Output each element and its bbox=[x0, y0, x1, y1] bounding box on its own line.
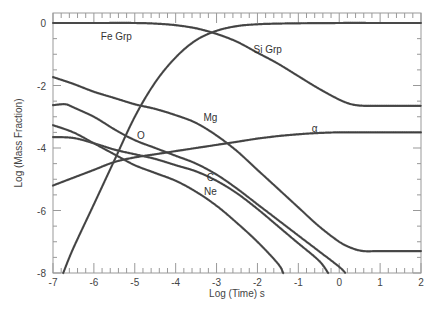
series-labels: Fe GrpSi GrpMgOCNeα bbox=[101, 31, 318, 197]
x-axis-label: Log (Time) s bbox=[209, 288, 265, 299]
x-tick-label: -4 bbox=[171, 277, 180, 288]
x-tick-label: -3 bbox=[212, 277, 221, 288]
x-tick-label: -2 bbox=[253, 277, 262, 288]
series-label: O bbox=[137, 130, 145, 141]
series-label: Mg bbox=[203, 112, 217, 123]
series-line-fe-grp bbox=[63, 23, 421, 273]
y-axis-label: Log (Mass Fraction) bbox=[13, 99, 24, 188]
series-label: Si Grp bbox=[253, 44, 282, 55]
x-tick-label: -6 bbox=[89, 277, 98, 288]
series-line-ne bbox=[53, 125, 283, 273]
series-label: α bbox=[312, 123, 318, 134]
x-tick-label: -7 bbox=[49, 277, 58, 288]
series-line-α bbox=[53, 132, 421, 185]
y-tick-label: -8 bbox=[37, 268, 46, 279]
y-tick-label: 0 bbox=[40, 18, 46, 29]
y-tick-label: -4 bbox=[37, 143, 46, 154]
axis-ticks: -7-6-5-4-3-2-10120-2-4-6-8 bbox=[37, 13, 424, 288]
x-tick-label: 1 bbox=[377, 277, 383, 288]
series-curves bbox=[53, 23, 421, 273]
series-label: Fe Grp bbox=[101, 31, 133, 42]
x-tick-label: 2 bbox=[418, 277, 424, 288]
y-tick-label: -2 bbox=[37, 81, 46, 92]
plot-frame bbox=[53, 13, 421, 273]
series-label: Ne bbox=[204, 186, 217, 197]
x-tick-label: 0 bbox=[336, 277, 342, 288]
mass-fraction-chart: -7-6-5-4-3-2-10120-2-4-6-8 Fe GrpSi GrpM… bbox=[0, 0, 437, 313]
y-tick-label: -6 bbox=[37, 206, 46, 217]
series-label: C bbox=[207, 172, 214, 183]
x-tick-label: -5 bbox=[130, 277, 139, 288]
series-line-o bbox=[53, 104, 345, 273]
x-tick-label: -1 bbox=[294, 277, 303, 288]
